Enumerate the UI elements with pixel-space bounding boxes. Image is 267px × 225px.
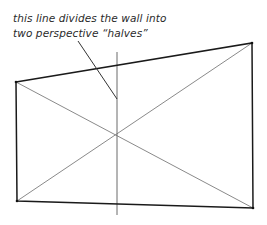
corner-bottom-left — [16, 200, 19, 203]
corner-top-right — [251, 42, 254, 45]
annotation-pointer-line — [78, 41, 117, 99]
diagonal-tl-br — [16, 82, 253, 208]
wall-outline — [16, 43, 253, 208]
perspective-wall-diagram — [0, 0, 267, 225]
corner-bottom-right — [252, 207, 255, 210]
corner-top-left — [15, 81, 18, 84]
diagonal-bl-tr — [17, 43, 252, 201]
